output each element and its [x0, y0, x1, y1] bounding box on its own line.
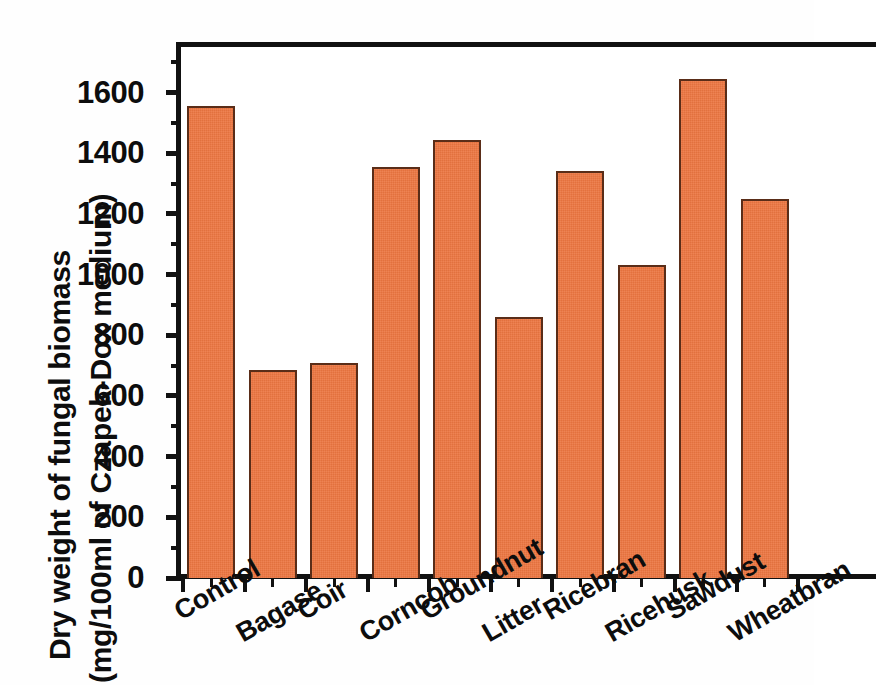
x-axis-minor-tick — [394, 578, 397, 587]
bar[interactable] — [679, 79, 727, 578]
bar-series-layer — [181, 47, 876, 578]
bar[interactable] — [556, 171, 604, 578]
y-axis-tick-label: 600 — [94, 378, 144, 414]
bar[interactable] — [741, 199, 789, 578]
x-axis-tick-label[interactable]: Litter — [477, 589, 549, 648]
bar[interactable] — [372, 167, 420, 578]
y-axis-tick-label: 200 — [94, 499, 144, 535]
y-axis-tick-label: 1400 — [77, 135, 144, 171]
y-axis-tick-label: 400 — [94, 439, 144, 475]
y-axis-tick-label: 800 — [94, 317, 144, 353]
x-axis-minor-tick — [640, 578, 643, 587]
y-axis-tick-label: 1600 — [77, 75, 144, 111]
bar[interactable] — [433, 140, 481, 578]
y-axis-tick-label-group: 02004006008001000120014001600 — [0, 47, 166, 578]
y-axis-tick-label: 0 — [127, 560, 144, 596]
bar[interactable] — [618, 265, 666, 578]
bar[interactable] — [310, 363, 358, 578]
y-axis-tick-label: 1000 — [77, 257, 144, 293]
x-axis-minor-tick — [763, 578, 766, 587]
y-axis-tick-label: 1200 — [77, 196, 144, 232]
bar[interactable] — [249, 370, 297, 578]
x-axis-minor-tick — [271, 578, 274, 587]
bar[interactable] — [187, 106, 235, 578]
x-axis-major-tick — [366, 578, 370, 592]
x-axis-minor-tick — [517, 578, 520, 587]
